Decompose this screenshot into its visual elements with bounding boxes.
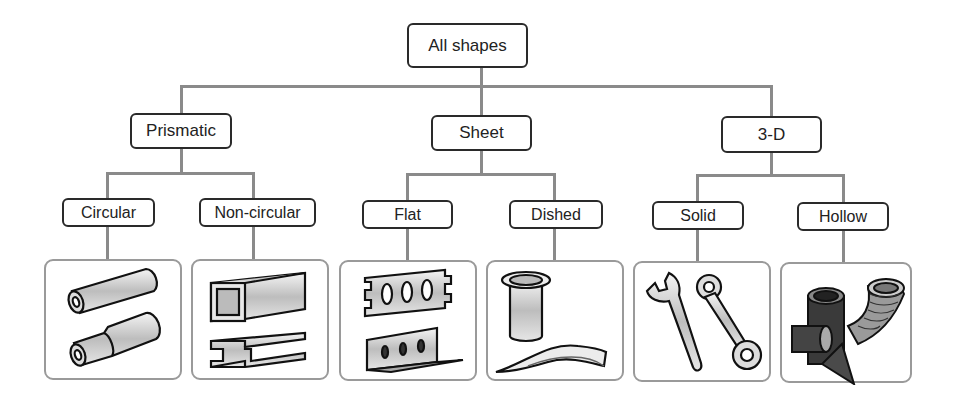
connector-circular-drop [106, 172, 109, 199]
connector-sheet-drop [480, 85, 483, 116]
connector-noncircular-panel [252, 225, 255, 260]
panel-circular [44, 259, 182, 380]
connector-level1-bar [180, 85, 773, 88]
connector-prismatic-bar [106, 172, 255, 175]
connector-root-stem [480, 66, 483, 86]
node-hollow: Hollow [797, 202, 889, 231]
connector-flat-drop [406, 173, 409, 201]
connector-3d-drop [770, 85, 773, 117]
connector-hollow-drop [842, 174, 845, 202]
node-prismatic: Prismatic [130, 113, 232, 149]
panel-hollow [780, 262, 912, 383]
connector-solid-panel [696, 228, 699, 262]
panel-solid [633, 261, 771, 382]
connector-sheet-stem [480, 149, 483, 175]
node-3d: 3-D [721, 116, 822, 153]
connector-hollow-panel [842, 228, 845, 262]
node-sheet: Sheet [431, 115, 532, 151]
node-circular: Circular [62, 198, 155, 227]
cup-and-curved-sheet-icon [488, 262, 626, 383]
connector-noncircular-drop [252, 172, 255, 199]
connector-dished-drop [553, 173, 556, 201]
connector-3d-bar [696, 174, 845, 177]
node-all-shapes: All shapes [407, 23, 528, 68]
node-dished: Dished [509, 200, 603, 229]
connector-prismatic-drop [180, 85, 183, 114]
panel-dished [486, 260, 624, 381]
connector-solid-drop [696, 174, 699, 202]
connector-circular-panel [106, 225, 109, 260]
corrugated-pipe-fittings-icon [782, 264, 914, 385]
connector-sheet-bar [406, 173, 556, 176]
round-tubes-icon [46, 261, 184, 382]
node-flat: Flat [362, 200, 453, 229]
connector-3d-stem [770, 151, 773, 176]
connector-flat-panel [406, 227, 409, 261]
wrenches-icon [635, 263, 773, 384]
connector-dished-panel [553, 227, 556, 261]
perforated-plate-and-angle-icon [341, 262, 479, 383]
panel-flat [339, 260, 477, 381]
square-tube-and-i-beam-icon [193, 261, 331, 382]
node-non-circular: Non-circular [199, 198, 316, 227]
panel-non-circular [191, 259, 329, 380]
node-solid: Solid [652, 201, 744, 230]
connector-prismatic-stem [180, 147, 183, 174]
